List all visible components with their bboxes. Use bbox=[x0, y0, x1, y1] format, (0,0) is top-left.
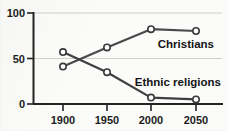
y-axis: 100 50 0 bbox=[7, 7, 34, 110]
christians-point-2000 bbox=[148, 26, 154, 32]
ethnic-religions-point-1900 bbox=[60, 49, 66, 55]
x-tick-label-1900: 1900 bbox=[51, 114, 75, 126]
chart-page: 100 50 0 1900 1950 2000 2050 bbox=[0, 0, 228, 131]
christians-point-1950 bbox=[104, 44, 110, 50]
x-axis: 1900 1950 2000 2050 bbox=[33, 104, 223, 126]
x-tick-label-2050: 2050 bbox=[184, 114, 208, 126]
x-tick-label-1950: 1950 bbox=[95, 114, 119, 126]
ethnic-religions-point-1950 bbox=[104, 69, 110, 75]
christians-point-2050 bbox=[193, 28, 199, 34]
y-tick-label-100: 100 bbox=[7, 7, 25, 19]
y-tick-label-50: 50 bbox=[13, 53, 25, 65]
line-chart: 100 50 0 1900 1950 2000 2050 bbox=[0, 0, 228, 131]
series-label-ethnic-religions: Ethnic religions bbox=[135, 76, 221, 88]
ethnic-religions-point-2050 bbox=[193, 96, 199, 102]
series-label-christians: Christians bbox=[158, 38, 214, 50]
christians-point-1900 bbox=[60, 63, 66, 69]
ethnic-religions-point-2000 bbox=[148, 94, 154, 100]
x-tick-label-2000: 2000 bbox=[139, 114, 163, 126]
y-tick-label-0: 0 bbox=[19, 98, 25, 110]
